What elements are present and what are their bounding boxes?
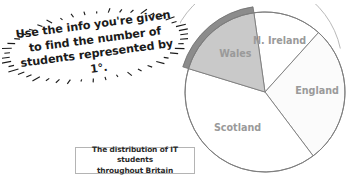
pie-chart: N. IrelandEnglandScotlandWales	[180, 4, 354, 186]
pie-label-england: England	[295, 85, 339, 96]
caption-line-1: The distribution of IT students	[76, 145, 194, 166]
caption-line-2: throughout Britain	[76, 166, 194, 177]
instruction-starburst: Use the info you're given to find the nu…	[2, 4, 188, 88]
pie-label-scotland: Scotland	[214, 122, 261, 133]
chart-caption-text: The distribution of IT students througho…	[76, 145, 194, 177]
pie-label-wales: Wales	[219, 48, 252, 59]
pie-label-n-ireland: N. Ireland	[253, 35, 306, 46]
chart-caption-box: The distribution of IT students througho…	[75, 147, 195, 174]
worksheet-figure: Use the info you're given to find the nu…	[0, 0, 354, 188]
